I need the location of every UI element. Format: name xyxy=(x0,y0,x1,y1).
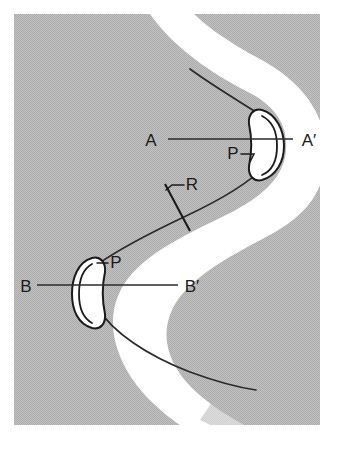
section-label-a: A xyxy=(145,131,157,150)
section-label-b: B xyxy=(20,277,31,296)
section-label-a-prime: A′ xyxy=(302,131,317,150)
limb-label: R xyxy=(186,175,198,194)
hinge-label-lower: P xyxy=(110,253,121,272)
fold-map-figure: A A′ B B′ P P R xyxy=(0,0,341,451)
section-label-b-prime: B′ xyxy=(185,277,200,296)
map-body xyxy=(14,14,326,451)
fold-map-diagram: A A′ B B′ P P R xyxy=(0,0,341,451)
hinge-label-upper: P xyxy=(227,144,238,163)
